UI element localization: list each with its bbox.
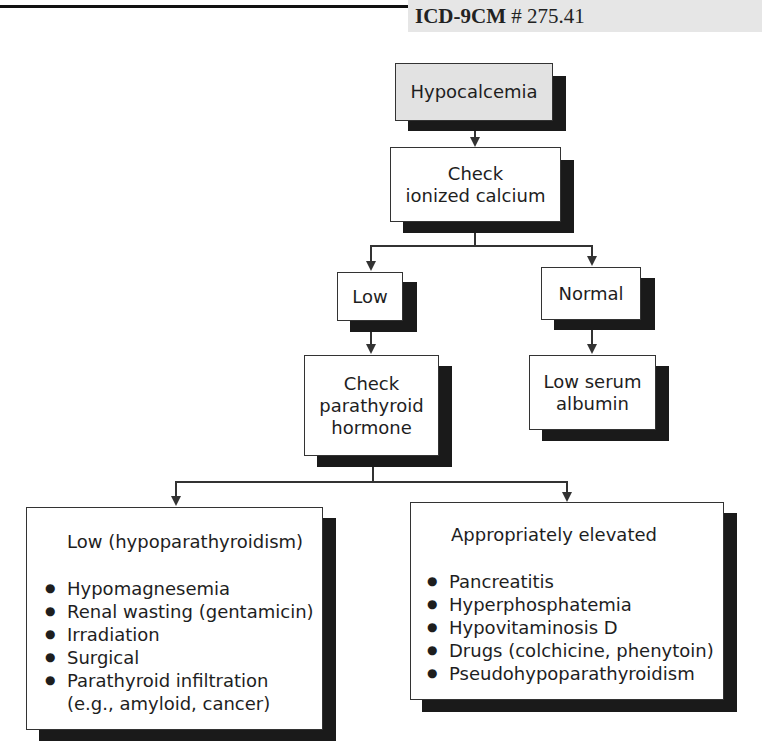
node-label: albumin	[556, 393, 629, 415]
list-item: Parathyroid infiltration (e.g., amyloid,…	[45, 669, 282, 715]
header-rule	[0, 5, 408, 8]
connector	[370, 245, 372, 262]
list-item: Irradiation	[45, 623, 315, 646]
list-item: Hypovitaminosis D	[427, 616, 722, 639]
node-label: ionized calcium	[406, 185, 546, 207]
node-label: Hypocalcemia	[410, 81, 537, 103]
node-label: Low	[352, 286, 387, 308]
cause-list: Hypomagnesemia Renal wasting (gentamicin…	[45, 577, 315, 715]
node-low: Low	[337, 272, 403, 321]
icd-code: ICD-9CM # 275.41	[415, 4, 585, 29]
list-item: Drugs (colchicine, phenytoin)	[427, 639, 722, 662]
node-label: Low serum	[544, 371, 642, 393]
connector	[370, 245, 592, 247]
connector	[372, 467, 374, 482]
node-label: parathyroid	[319, 395, 423, 417]
list-item: Pseudohypoparathyroidism	[427, 662, 722, 685]
arrow-down-icon	[587, 344, 597, 354]
node-label: Check	[344, 373, 399, 395]
node-title: Low (hypoparathyroidism)	[67, 530, 303, 553]
arrow-down-icon	[171, 496, 181, 506]
node-check-ionized-calcium: Check ionized calcium	[390, 147, 561, 222]
cause-list: Pancreatitis Hyperphosphatemia Hypovitam…	[427, 570, 722, 685]
arrow-down-icon	[562, 492, 572, 502]
connector	[175, 481, 567, 483]
node-pth-appropriately-elevated: Appropriately elevated Pancreatitis Hype…	[410, 502, 724, 700]
node-pth-low-hypoparathyroidism: Low (hypoparathyroidism) Hypomagnesemia …	[26, 507, 323, 730]
arrow-down-icon	[470, 137, 480, 147]
arrow-down-icon	[366, 261, 376, 271]
arrow-down-icon	[366, 344, 376, 354]
node-check-parathyroid-hormone: Check parathyroid hormone	[304, 355, 439, 456]
list-item: Hypomagnesemia	[45, 577, 315, 600]
list-item: Pancreatitis	[427, 570, 722, 593]
node-title: Appropriately elevated	[451, 523, 657, 546]
node-label: Normal	[558, 283, 623, 305]
list-item: Renal wasting (gentamicin)	[45, 600, 315, 623]
list-item: Surgical	[45, 646, 315, 669]
node-hypocalcemia: Hypocalcemia	[395, 63, 553, 121]
connector	[175, 481, 177, 497]
list-item: Hyperphosphatemia	[427, 593, 722, 616]
arrow-down-icon	[587, 256, 597, 266]
node-normal: Normal	[541, 267, 641, 320]
node-low-serum-albumin: Low serum albumin	[529, 355, 656, 430]
node-label: Check	[448, 163, 503, 185]
node-label: hormone	[331, 417, 412, 439]
